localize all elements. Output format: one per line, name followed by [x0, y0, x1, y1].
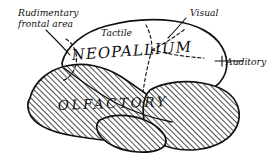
tactile-label: Tactile: [101, 27, 133, 38]
auditory-label: Auditory: [225, 56, 267, 67]
visual-label: Visual: [190, 7, 219, 18]
rudimentary-frontal-area-label-line2: frontal area: [17, 18, 73, 29]
brain-diagram-figure: Rudimentary frontal area Tactile Visual …: [0, 0, 272, 157]
brain-diagram-svg: Rudimentary frontal area Tactile Visual …: [0, 0, 272, 157]
rudimentary-leader-line: [46, 30, 70, 55]
rudimentary-frontal-area-label-line1: Rudimentary: [17, 7, 79, 18]
